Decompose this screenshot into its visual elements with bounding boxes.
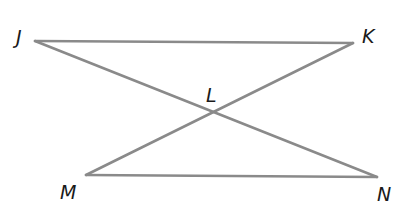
segment-km [86,43,353,175]
label-n: N [377,183,391,205]
label-j: J [12,26,22,48]
segment-mn [86,175,377,177]
segment-jn [35,41,377,177]
bowtie-diagram: J K L M N [0,0,413,212]
label-l: L [206,84,217,106]
label-m: M [60,181,76,203]
segment-jk [35,41,353,43]
label-k: K [362,25,376,47]
